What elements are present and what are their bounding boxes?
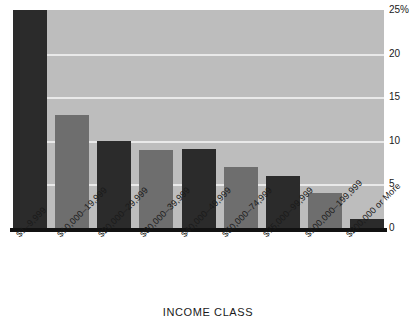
y-axis-tick-labels: 25%20151050 (389, 0, 416, 240)
x-axis-title: INCOME CLASS (0, 306, 416, 318)
bar (13, 10, 47, 228)
x-axis-tick-labels: $1–9,999$10,000–19,999$20,000–29,999$30,… (0, 232, 416, 298)
y-axis-tick-label: 20 (389, 49, 400, 59)
y-axis-tick-label: 10 (389, 136, 400, 146)
bar-chart: 25%20151050 $1–9,999$10,000–19,999$20,00… (0, 0, 416, 326)
y-axis-tick-label: 25% (389, 5, 409, 15)
plot-area (13, 10, 384, 228)
y-axis-tick-label: 15 (389, 92, 400, 102)
bar-series (13, 10, 384, 228)
